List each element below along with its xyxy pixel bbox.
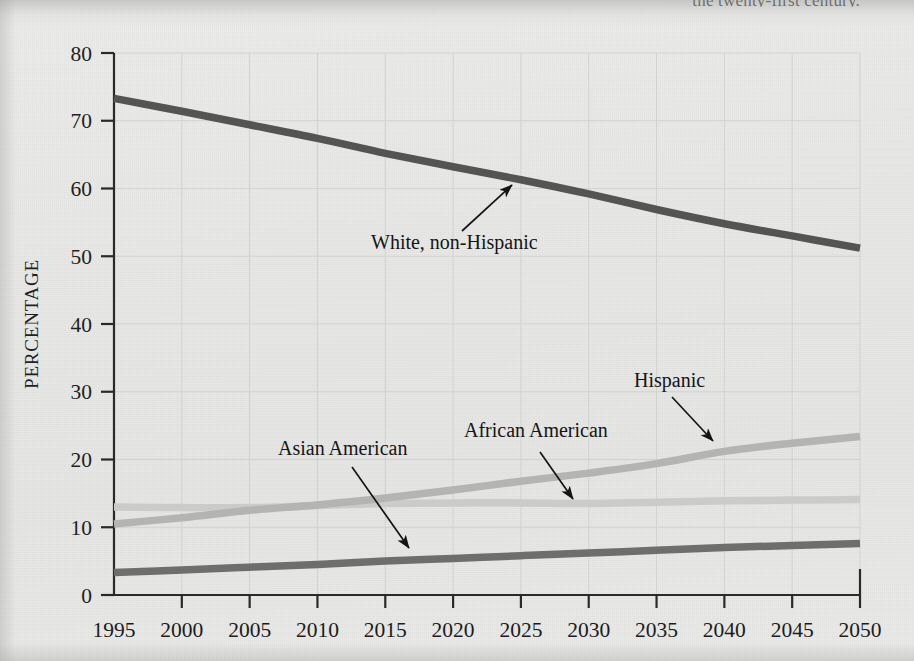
y-axis-ticks [101, 53, 114, 595]
x-axis-tick-label: 2050 [839, 618, 882, 642]
annotation-white-non-hispanic: White, non-Hispanic [371, 185, 538, 254]
y-axis-title: PERCENTAGE [21, 259, 42, 389]
x-axis-tick-label: 2020 [432, 618, 475, 642]
x-axis-tick-label: 2005 [228, 618, 271, 642]
x-axis-tick-label: 2025 [499, 618, 542, 642]
annotation-label-african-american: African American [464, 419, 608, 441]
y-axis-tick-label: 40 [71, 313, 93, 337]
annotation-arrow-hispanic [672, 397, 713, 441]
x-axis-tick-label: 1995 [93, 618, 136, 642]
annotation-arrow-white-non-hispanic [462, 185, 512, 231]
series-line [114, 544, 860, 573]
x-axis-tick-labels: 1995200020052010201520202025203020352040… [93, 618, 882, 642]
x-axis-tick-label: 2010 [296, 618, 339, 642]
y-axis-tick-label: 80 [71, 42, 93, 66]
x-axis-tick-label: 2000 [160, 618, 203, 642]
annotation-label-asian-american: Asian American [278, 437, 407, 459]
y-axis-tick-label: 0 [81, 584, 92, 608]
y-axis-tick-label: 50 [71, 245, 93, 269]
annotation-label-hispanic: Hispanic [634, 369, 705, 392]
x-axis-tick-label: 2030 [567, 618, 610, 642]
x-axis-tick-label: 2015 [364, 618, 407, 642]
series-line [114, 500, 860, 508]
y-axis-tick-label: 20 [71, 448, 93, 472]
annotation-label-white-non-hispanic: White, non-Hispanic [371, 231, 538, 254]
series-line [114, 437, 860, 524]
y-axis-tick-label: 70 [71, 109, 93, 133]
y-axis-tick-label: 10 [71, 516, 93, 540]
annotation-asian-american: Asian American [278, 437, 409, 548]
y-axis-tick-label: 60 [71, 177, 93, 201]
data-series-group [114, 98, 860, 572]
horizontal-gridlines [114, 53, 860, 527]
y-axis-tick-label: 30 [71, 380, 93, 404]
x-axis-ticks [182, 595, 860, 608]
x-axis-tick-label: 2035 [635, 618, 678, 642]
population-projection-line-chart: 01020304050607080 1995200020052010201520… [0, 0, 914, 661]
annotation-hispanic: Hispanic [634, 369, 713, 441]
x-axis-tick-label: 2045 [771, 618, 814, 642]
x-axis-tick-label: 2040 [703, 618, 746, 642]
y-axis-tick-labels: 01020304050607080 [71, 42, 93, 608]
